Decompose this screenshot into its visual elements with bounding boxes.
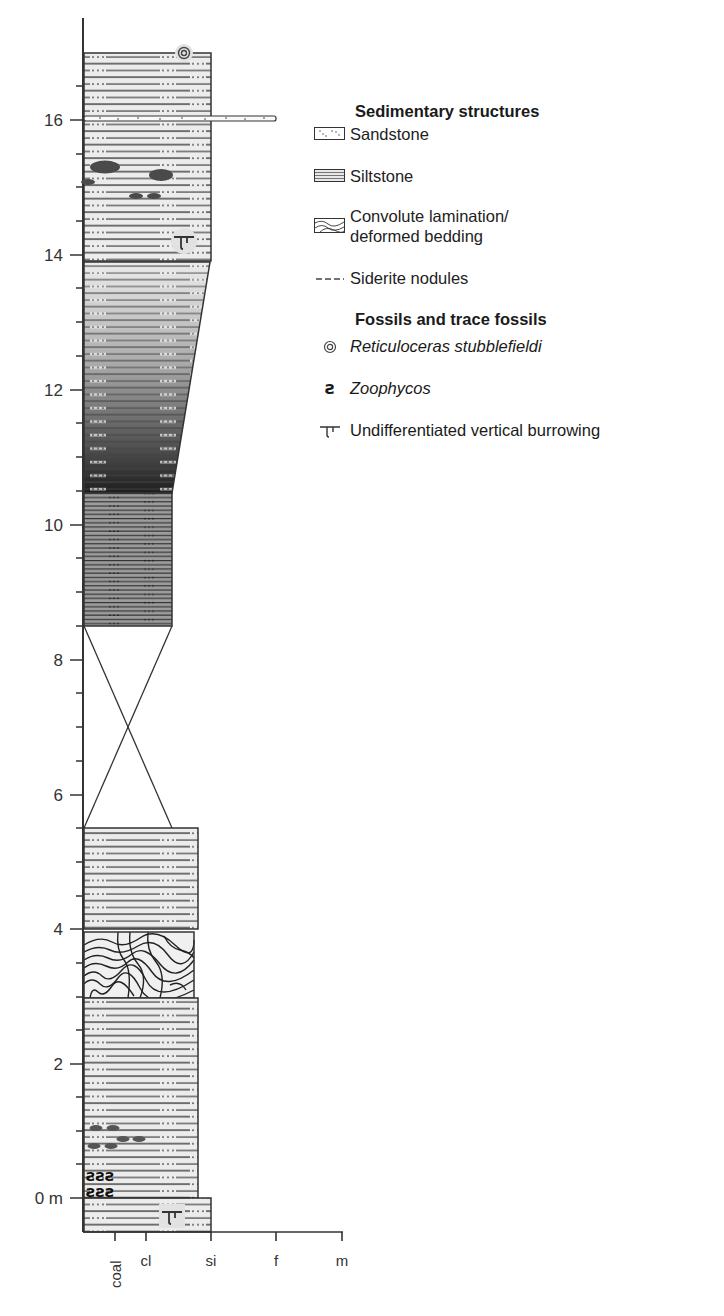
burrow-icon [310,420,350,440]
tick-label-0m: 0 m [35,1189,63,1208]
grain-label-cl: cl [141,1252,152,1269]
grain-label-m: m [336,1252,349,1269]
tick-label-10: 10 [44,516,63,535]
legend-label-burrowing: Undifferentiated vertical burrowing [350,420,600,440]
legend-label-zoophycos: Zoophycos [350,378,431,398]
tick-label-4: 4 [54,920,63,939]
ammonite-icon [310,336,350,356]
burrow-icon-lower [159,1204,185,1228]
grain-label-si: si [206,1252,217,1269]
grain-size-axis [83,1232,343,1241]
legend-heading-fossils: Fossils and trace fossils [355,310,547,329]
legend-heading-sedimentary-structures: Sedimentary structures [355,102,539,121]
layer-convolute-lamination [84,932,194,1001]
layer-siltstone-base [84,1198,211,1232]
axis-ticks [70,86,83,1198]
tick-label-12: 12 [44,381,63,400]
axis-tick-labels: 16 14 12 10 8 6 4 2 0 m [35,111,63,1208]
layer-sandstone-bed [84,116,276,121]
layer-siltstone-4-5 [84,828,198,929]
burrow-icon-upper [171,228,197,254]
layer-siltstone-gradient [84,262,210,493]
legend-label-reticuloceras: Reticuloceras stubblefieldi [350,336,542,356]
layer-siltstone-dark [84,493,172,626]
tick-label-8: 8 [54,651,63,670]
zoophycos-icon: ƨ [310,378,350,398]
zoophycos-fossil-icon: ƨƨƨ ƨƨƨ [86,1166,115,1201]
tick-label-16: 16 [44,111,63,130]
no-exposure-gap [84,626,172,828]
legend-content: Sedimentary structures Fossils and trace… [310,86,714,476]
reticuloceras-fossil-icon [175,44,193,62]
legend-item-burrowing: Undifferentiated vertical burrowing [310,420,600,440]
legend-item-zoophycos: ƨ Zoophycos [310,378,431,398]
tick-label-2: 2 [54,1055,63,1074]
grain-label-coal: coal [107,1260,124,1288]
layer-siltstone-top [84,53,211,261]
grain-label-f: f [274,1252,279,1269]
legend-item-reticuloceras: Reticuloceras stubblefieldi [310,336,542,356]
tick-label-14: 14 [44,246,63,265]
grain-size-labels: coal cl si f m [107,1252,348,1288]
tick-label-6: 6 [54,786,63,805]
